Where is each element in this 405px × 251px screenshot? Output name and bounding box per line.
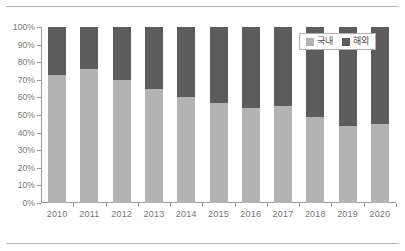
bar-segment-overseas xyxy=(177,27,195,97)
legend-swatch-icon xyxy=(306,38,314,46)
x-axis-tick-label: 2016 xyxy=(240,209,261,219)
legend-swatch-icon xyxy=(342,38,350,46)
stacked-bar xyxy=(48,27,66,203)
stacked-bar xyxy=(242,27,260,203)
y-axis-tick xyxy=(37,62,41,63)
y-axis-tick-label: 60% xyxy=(18,92,35,102)
bar-segment-overseas xyxy=(113,27,131,80)
legend-entry: 해외 xyxy=(342,37,369,46)
y-axis-tick xyxy=(37,27,41,28)
stacked-bar xyxy=(145,27,163,203)
plot-area: 0%10%20%30%40%50%60%70%80%90%100% 201020… xyxy=(41,27,396,203)
legend-label: 해외 xyxy=(353,37,369,46)
y-axis-tick xyxy=(37,97,41,98)
chart-legend: 국내해외 xyxy=(299,33,376,50)
legend-label: 국내 xyxy=(317,37,333,46)
bar-segment-domestic xyxy=(371,124,389,203)
x-axis-tick-label: 2011 xyxy=(79,209,99,219)
x-axis-tick xyxy=(364,203,365,207)
x-axis-tick xyxy=(267,203,268,207)
bar-segment-overseas xyxy=(242,27,260,108)
bar-segment-overseas xyxy=(274,27,292,106)
bar-segment-domestic xyxy=(145,89,163,203)
bar-segment-domestic xyxy=(80,69,98,203)
bar-segment-domestic xyxy=(113,80,131,203)
x-axis-tick-label: 2019 xyxy=(337,209,358,219)
x-axis-tick xyxy=(106,203,107,207)
y-axis-tick-label: 80% xyxy=(18,57,35,67)
bar-segment-domestic xyxy=(306,117,324,203)
x-axis-tick-label: 2012 xyxy=(111,209,132,219)
chart-figure: 0%10%20%30%40%50%60%70%80%90%100% 201020… xyxy=(0,0,405,251)
x-axis-tick xyxy=(170,203,171,207)
y-axis-tick xyxy=(37,115,41,116)
stacked-bar xyxy=(210,27,228,203)
y-axis-tick xyxy=(37,80,41,81)
y-axis-tick xyxy=(37,150,41,151)
y-axis-tick-label: 20% xyxy=(18,163,35,173)
x-axis-tick-label: 2020 xyxy=(369,209,390,219)
bar-segment-overseas xyxy=(80,27,98,69)
y-axis-tick xyxy=(37,203,41,204)
bar-segment-domestic xyxy=(48,75,66,203)
y-axis-tick-label: 90% xyxy=(18,40,35,50)
bottom-divider-rule xyxy=(6,243,399,244)
stacked-bar xyxy=(371,27,389,203)
stacked-bar xyxy=(177,27,195,203)
bar-segment-domestic xyxy=(339,126,357,203)
bar-segment-domestic xyxy=(274,106,292,203)
bar-segment-overseas xyxy=(210,27,228,103)
stacked-bar xyxy=(113,27,131,203)
x-axis-tick xyxy=(202,203,203,207)
bar-segment-overseas xyxy=(48,27,66,75)
x-axis-tick-label: 2018 xyxy=(305,209,326,219)
bar-segment-overseas xyxy=(145,27,163,89)
y-axis-tick xyxy=(37,45,41,46)
x-axis-tick xyxy=(73,203,74,207)
y-axis-tick-label: 0% xyxy=(23,198,36,208)
x-axis-tick-label: 2015 xyxy=(208,209,229,219)
y-axis-tick xyxy=(37,185,41,186)
x-axis-tick xyxy=(396,203,397,207)
x-axis-tick-label: 2010 xyxy=(47,209,68,219)
y-axis-tick xyxy=(37,168,41,169)
x-axis-tick-label: 2013 xyxy=(144,209,165,219)
stacked-bar xyxy=(80,27,98,203)
legend-entry: 국내 xyxy=(306,37,333,46)
x-axis-tick xyxy=(235,203,236,207)
y-axis-tick-label: 100% xyxy=(13,22,35,32)
y-axis-tick xyxy=(37,133,41,134)
bar-segment-domestic xyxy=(210,103,228,203)
stacked-bar xyxy=(274,27,292,203)
bar-segment-domestic xyxy=(242,108,260,203)
y-axis-tick-label: 50% xyxy=(18,110,35,120)
y-axis-tick-label: 40% xyxy=(18,128,35,138)
x-axis-tick xyxy=(331,203,332,207)
y-axis-tick-label: 70% xyxy=(18,75,35,85)
x-axis-tick xyxy=(138,203,139,207)
stacked-bar xyxy=(306,27,324,203)
x-axis-tick-label: 2014 xyxy=(176,209,197,219)
y-axis-tick-label: 10% xyxy=(18,180,35,190)
bar-segment-domestic xyxy=(177,97,195,203)
y-axis-tick-label: 30% xyxy=(18,145,35,155)
x-axis-tick xyxy=(299,203,300,207)
top-divider-rule xyxy=(6,6,399,7)
stacked-bar xyxy=(339,27,357,203)
x-axis-tick-label: 2017 xyxy=(273,209,294,219)
